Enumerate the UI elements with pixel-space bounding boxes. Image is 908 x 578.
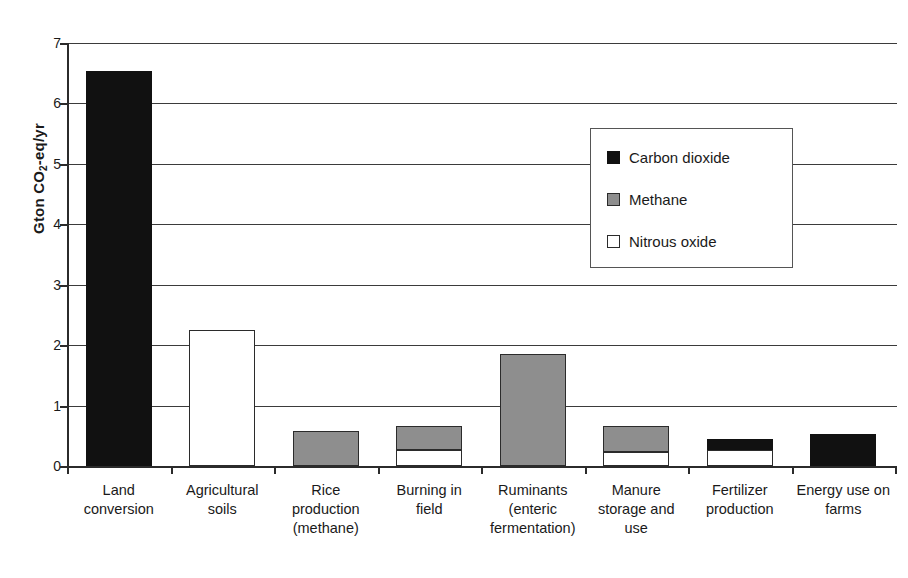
y-axis-tick-mark [60, 285, 67, 287]
x-axis-category-labels: LandconversionAgriculturalsoilsRiceprodu… [67, 481, 895, 571]
chart-legend: Carbon dioxideMethaneNitrous oxide [590, 128, 793, 268]
x-axis-tick-mark [274, 466, 276, 474]
y-axis-tick-mark [60, 103, 67, 105]
bar-segment-co2[interactable] [86, 71, 152, 466]
x-axis-tick-mark [171, 466, 173, 474]
y-axis-tick-mark [60, 406, 67, 408]
x-axis-tick-mark [688, 466, 690, 474]
y-axis-tick-mark [60, 466, 67, 468]
bar-group[interactable] [189, 43, 255, 466]
x-axis-tick-mark [378, 466, 380, 474]
bar-group[interactable] [396, 43, 462, 466]
bar-segment-co2[interactable] [810, 434, 876, 466]
x-axis-label-line: Burning in [370, 481, 490, 500]
black-square-icon [607, 151, 620, 164]
y-axis-tick-label: 6 [31, 96, 61, 110]
x-axis-category-label: Manurestorage anduse [577, 481, 697, 538]
y-axis-tick-label: 2 [31, 338, 61, 352]
bar-group[interactable] [500, 43, 566, 466]
x-axis-tick-mark [792, 466, 794, 474]
x-axis-label-line: field [370, 500, 490, 519]
y-axis-tick-mark [60, 224, 67, 226]
legend-item-label: Nitrous oxide [629, 233, 717, 250]
x-axis-label-line: farms [784, 500, 904, 519]
x-axis-tick-mark [481, 466, 483, 474]
x-axis-label-line: Manure [577, 481, 697, 500]
bar-segment-n2o[interactable] [396, 450, 462, 466]
x-axis-category-label: Agriculturalsoils [163, 481, 283, 519]
y-axis-tick-mark [60, 164, 67, 166]
x-axis-tick-mark [585, 466, 587, 474]
y-axis-tick-label: 0 [31, 459, 61, 473]
legend-item[interactable]: Carbon dioxide [607, 149, 730, 166]
y-axis-tick-label: 7 [31, 36, 61, 50]
y-axis-tick-mark [60, 43, 67, 45]
y-axis-tick-label: 1 [31, 399, 61, 413]
x-axis-label-line: (methane) [266, 519, 386, 538]
legend-item-label: Carbon dioxide [629, 149, 730, 166]
x-axis-category-label: Fertilizerproduction [680, 481, 800, 519]
x-axis-label-line: Energy use on [784, 481, 904, 500]
x-axis-label-line: Rice [266, 481, 386, 500]
y-axis-tick-mark [60, 345, 67, 347]
x-axis-category-label: Riceproduction(methane) [266, 481, 386, 538]
y-axis-tick-labels: 01234567 [27, 43, 61, 466]
bar-segment-n2o[interactable] [707, 450, 773, 466]
x-axis-label-line: use [577, 519, 697, 538]
bar-segment-ch4[interactable] [293, 431, 359, 466]
legend-item[interactable]: Methane [607, 191, 687, 208]
legend-item[interactable]: Nitrous oxide [607, 233, 717, 250]
bar-segment-ch4[interactable] [603, 426, 669, 452]
x-axis-label-line: fermentation) [473, 519, 593, 538]
bar-group[interactable] [810, 43, 876, 466]
y-axis-tick-label: 4 [31, 217, 61, 231]
x-axis-label-line: Ruminants [473, 481, 593, 500]
bar-segment-n2o[interactable] [603, 452, 669, 466]
bar-segment-n2o[interactable] [189, 330, 255, 466]
x-axis-label-line: production [680, 500, 800, 519]
y-axis-tick-label: 3 [31, 278, 61, 292]
legend-item-label: Methane [629, 191, 687, 208]
bar-segment-ch4[interactable] [500, 354, 566, 466]
x-axis-category-label: Energy use onfarms [784, 481, 904, 519]
gray-square-icon [607, 193, 620, 206]
x-axis-label-line: Land [59, 481, 179, 500]
y-axis-tick-label: 5 [31, 157, 61, 171]
x-axis-label-line: storage and [577, 500, 697, 519]
x-axis-label-line: conversion [59, 500, 179, 519]
x-axis-label-line: production [266, 500, 386, 519]
bar-group[interactable] [86, 43, 152, 466]
x-axis-category-label: Landconversion [59, 481, 179, 519]
x-axis-tick-mark [895, 466, 897, 474]
x-axis-category-label: Ruminants(entericfermentation) [473, 481, 593, 538]
emissions-bar-chart: Gton CO2-eq/yr 01234567 LandconversionAg… [0, 0, 908, 578]
x-axis-label-line: Agricultural [163, 481, 283, 500]
bar-segment-co2[interactable] [707, 439, 773, 449]
bar-segment-ch4[interactable] [396, 426, 462, 450]
x-axis-label-line: Fertilizer [680, 481, 800, 500]
x-axis-category-label: Burning infield [370, 481, 490, 519]
bar-group[interactable] [293, 43, 359, 466]
x-axis-label-line: (enteric [473, 500, 593, 519]
x-axis-tick-mark [67, 466, 69, 474]
white-square-icon [607, 235, 620, 248]
x-axis-label-line: soils [163, 500, 283, 519]
